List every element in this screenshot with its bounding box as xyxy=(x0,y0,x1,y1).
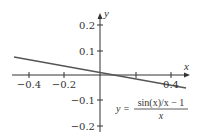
y-tick-label: −0.2 xyxy=(71,121,95,132)
equation-annotation: y = sin(x)/x − 1 x xyxy=(115,97,188,121)
equation-numerator: sin(x)/x − 1 xyxy=(138,97,185,109)
y-axis-label: y xyxy=(103,7,109,19)
chart-canvas: −0.4 −0.2 0.4 0.2 0.1 −0.1 −0.2 x y y = … xyxy=(0,0,198,140)
y-tick-label: −0.1 xyxy=(71,95,95,106)
equation-denominator: x xyxy=(158,110,164,121)
y-axis-arrow-icon xyxy=(98,13,103,19)
x-tick-label: 0.4 xyxy=(163,79,179,90)
y-tick-label: 0.2 xyxy=(79,20,95,31)
x-axis-label: x xyxy=(183,60,189,72)
chart: −0.4 −0.2 0.4 0.2 0.1 −0.1 −0.2 x y y = … xyxy=(0,0,198,140)
y-tick-label: 0.1 xyxy=(79,46,95,57)
equation-lhs: y = xyxy=(115,103,130,114)
x-tick-label: −0.2 xyxy=(52,79,76,90)
x-axis-arrow-icon xyxy=(184,73,190,78)
x-tick-label: −0.4 xyxy=(17,79,41,90)
